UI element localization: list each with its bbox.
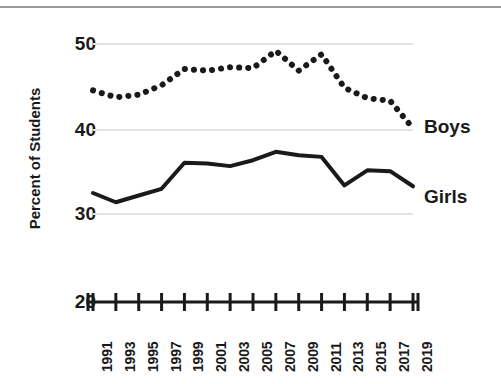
series-line-girls (93, 152, 413, 202)
x-tick-label-2011: 2011 (328, 342, 344, 372)
x-tick-label-2013: 2013 (350, 342, 366, 372)
x-tick-label-2005: 2005 (259, 342, 275, 372)
x-tick-label-2009: 2009 (305, 342, 321, 372)
series-label-girls: Girls (424, 186, 467, 208)
x-tick-label-2007: 2007 (282, 342, 298, 372)
x-tick-label-1995: 1995 (145, 342, 161, 372)
x-tick-label-2001: 2001 (213, 342, 229, 372)
x-tick-label-2015: 2015 (373, 342, 389, 372)
x-tick-label-1999: 1999 (190, 342, 206, 372)
x-tick-label-1997: 1997 (168, 342, 184, 372)
x-tick-label-1991: 1991 (99, 342, 115, 372)
series-label-boys: Boys (424, 116, 470, 138)
x-tick-label-2017: 2017 (396, 342, 412, 372)
x-tick-label-2003: 2003 (236, 342, 252, 372)
chart-container: Percent of Students 50 40 30 20 19911993… (0, 0, 501, 384)
series-line-boys (93, 51, 413, 128)
x-tick-label-2019: 2019 (419, 342, 435, 372)
x-tick-label-1993: 1993 (122, 342, 138, 372)
